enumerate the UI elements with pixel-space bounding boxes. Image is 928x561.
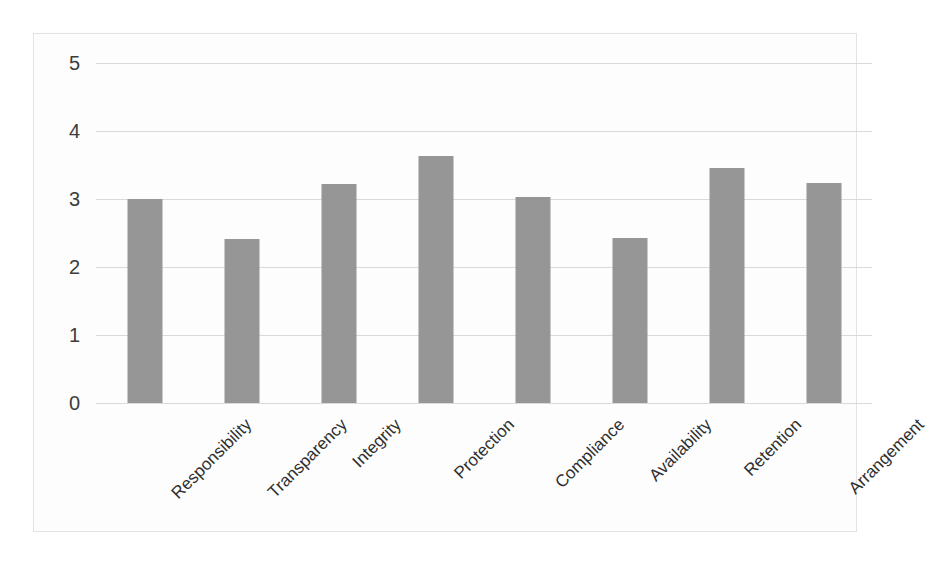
bar-slot	[96, 63, 193, 403]
bar-slot	[290, 63, 387, 403]
x-label-slot: Protection	[387, 403, 484, 533]
bar-slot	[678, 63, 775, 403]
bar-protection	[418, 156, 453, 403]
chart-frame: 012345 ResponsibilityTransparencyIntegri…	[33, 33, 857, 532]
bar-compliance	[515, 197, 550, 403]
bar-responsibility	[127, 199, 162, 403]
bar-slot	[581, 63, 678, 403]
bar-retention	[709, 168, 744, 403]
plot-area: 012345	[96, 63, 872, 403]
y-axis-tick-label: 4	[69, 121, 80, 141]
y-axis-tick-label: 3	[69, 189, 80, 209]
bar-integrity	[321, 184, 356, 403]
bar-arrangement	[806, 183, 841, 403]
x-label-slot: Arrangement	[775, 403, 872, 533]
x-axis-category-labels: ResponsibilityTransparencyIntegrityProte…	[96, 403, 872, 533]
y-axis-tick-label: 1	[69, 325, 80, 345]
x-label-slot: Retention	[678, 403, 775, 533]
x-label-slot: Compliance	[484, 403, 581, 533]
y-axis-tick-label: 2	[69, 257, 80, 277]
x-label-slot: Integrity	[290, 403, 387, 533]
x-axis-label-arrangement: Arrangement	[844, 415, 928, 499]
x-axis-label-text: Arrangement	[844, 415, 928, 499]
x-label-slot: Availability	[581, 403, 678, 533]
y-axis-tick-label: 0	[69, 393, 80, 413]
x-label-slot: Responsibility	[96, 403, 193, 533]
bar-slot	[484, 63, 581, 403]
bar-transparency	[224, 239, 259, 403]
bar-availability	[612, 238, 647, 403]
x-label-slot: Transparency	[193, 403, 290, 533]
bar-series	[96, 63, 872, 403]
bar-slot	[387, 63, 484, 403]
bar-slot	[193, 63, 290, 403]
bar-slot	[775, 63, 872, 403]
y-axis-tick-label: 5	[69, 53, 80, 73]
